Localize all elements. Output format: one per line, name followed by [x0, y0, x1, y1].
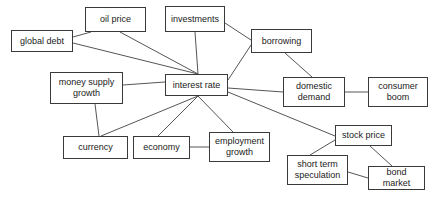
node-label-money-supply-growth: money supply growth [59, 77, 115, 99]
node-global-debt[interactable]: global debt [11, 30, 73, 52]
edge-borrowing-to-domestic-demand [285, 53, 312, 77]
node-money-supply-growth[interactable]: money supply growth [50, 72, 123, 104]
node-label-bond-market: bond market [383, 167, 411, 189]
edge-oil-price-to-interest-rate [120, 32, 198, 74]
node-label-investments: investments [171, 14, 219, 25]
node-label-consumer-boom: consumer boom [378, 81, 418, 103]
node-currency[interactable]: currency [63, 136, 128, 159]
edge-investments-to-interest-rate [195, 32, 198, 74]
node-short-term-speculation[interactable]: short term speculation [287, 155, 348, 185]
node-borrowing[interactable]: borrowing [251, 29, 312, 53]
node-label-borrowing: borrowing [262, 36, 302, 47]
edge-borrowing-to-interest-rate [228, 45, 251, 80]
edge-stock-price-to-short-term-speculation [310, 140, 335, 155]
node-label-short-term-speculation: short term speculation [295, 159, 341, 181]
edge-global-debt-to-oil-price [73, 32, 91, 37]
edge-money-supply-growth-to-interest-rate [123, 82, 165, 85]
node-stock-price[interactable]: stock price [335, 125, 392, 146]
node-bond-market[interactable]: bond market [368, 166, 425, 190]
node-employment-growth[interactable]: employment growth [209, 132, 270, 162]
edge-interest-rate-to-employment-growth [198, 96, 233, 132]
node-label-economy: economy [143, 142, 180, 153]
edge-money-supply-growth-to-currency [95, 104, 99, 136]
node-label-employment-growth: employment growth [215, 136, 264, 158]
edge-stock-price-to-bond-market [370, 146, 392, 166]
edge-short-term-speculation-to-bond-market [348, 172, 368, 178]
node-consumer-boom[interactable]: consumer boom [368, 77, 428, 107]
node-domestic-demand[interactable]: domestic demand [283, 77, 345, 107]
node-label-domestic-demand: domestic demand [296, 81, 332, 103]
node-label-oil-price: oil price [100, 14, 131, 25]
node-oil-price[interactable]: oil price [85, 7, 146, 32]
edge-interest-rate-to-economy [158, 96, 198, 136]
node-interest-rate[interactable]: interest rate [165, 74, 228, 96]
edge-global-debt-to-interest-rate [73, 43, 198, 74]
edge-investments-to-borrowing [225, 23, 251, 40]
node-investments[interactable]: investments [165, 6, 225, 32]
edge-interest-rate-to-domestic-demand [228, 88, 283, 92]
node-label-stock-price: stock price [342, 130, 385, 141]
node-label-interest-rate: interest rate [173, 80, 221, 91]
node-label-global-debt: global debt [20, 36, 64, 47]
node-economy[interactable]: economy [133, 136, 190, 159]
node-label-currency: currency [78, 142, 113, 153]
diagram-canvas: global debtoil priceinvestmentsborrowing… [0, 0, 436, 198]
